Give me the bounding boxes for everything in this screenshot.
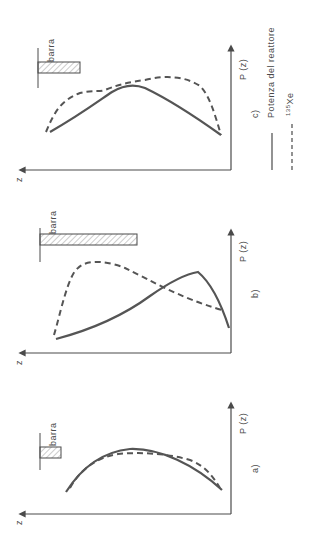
panel-c xyxy=(22,48,231,170)
bar-label-c: barra xyxy=(46,38,56,62)
legend-xenon-text: Xe xyxy=(285,92,295,104)
legend-power-label: Potenza del reattore xyxy=(266,27,276,118)
power-curve xyxy=(66,449,222,492)
p-axis-label-c: P (z) xyxy=(238,59,248,80)
control-rod-bar xyxy=(40,447,61,458)
panel-b xyxy=(22,228,231,353)
panel-label-a: a) xyxy=(250,464,260,473)
control-rod-bar xyxy=(40,234,137,245)
panel-label-c: c) xyxy=(250,110,260,119)
panel-label-b: b) xyxy=(250,289,260,298)
bar-label-b: barra xyxy=(48,210,58,234)
legend-xenon-label: 135Xe xyxy=(285,92,295,116)
p-axis-label-a: P (z) xyxy=(238,413,248,434)
z-axis-label-a: z xyxy=(14,520,24,525)
z-axis-label-c: z xyxy=(14,177,24,182)
control-rod-bar xyxy=(38,62,80,73)
p-axis-label-b: P (z) xyxy=(238,241,248,262)
z-axis-label-b: z xyxy=(14,360,24,365)
power-curve xyxy=(50,85,221,135)
power-curve xyxy=(56,272,229,339)
legend-xenon-sup: 135 xyxy=(285,104,291,116)
panel-a xyxy=(22,405,231,514)
bar-label-a: barra xyxy=(48,422,58,446)
